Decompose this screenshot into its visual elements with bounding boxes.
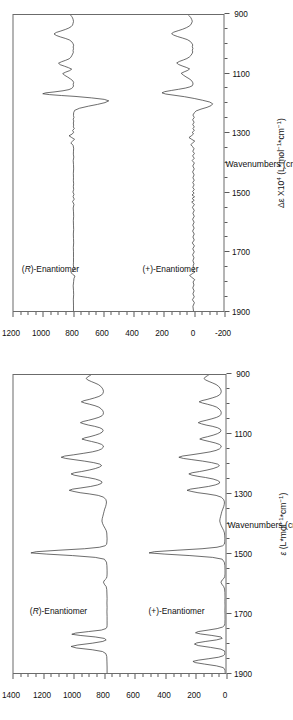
y-tick-label: 400 [119, 329, 145, 338]
axis-tick [50, 674, 51, 677]
axis-tick [226, 628, 229, 629]
axis-tick [226, 418, 229, 419]
y-tick-label: 1000 [59, 691, 85, 700]
axis-tick [150, 674, 151, 677]
axis-tick [88, 312, 89, 315]
x-tick-label: 1900 [229, 670, 257, 679]
axis-tick [58, 674, 59, 677]
ir-rotated-stage: 19001700150013001100900 0200400600800100… [0, 360, 293, 720]
axis-tick [57, 312, 58, 315]
axis-tick [27, 674, 28, 677]
axis-tick [81, 674, 82, 677]
axis-tick [42, 312, 43, 317]
spectrum-trace [30, 375, 106, 673]
axis-tick [118, 312, 119, 315]
axis-tick [224, 147, 227, 148]
axis-tick [157, 674, 158, 677]
y-tick-label: 1400 [0, 691, 24, 700]
axis-tick [186, 312, 187, 315]
axis-tick [173, 674, 174, 677]
axis-tick [226, 643, 229, 644]
axis-tick [226, 403, 229, 404]
vcd-trace-label-plus-enantiomer: (+)-Enantiomer [140, 264, 200, 274]
ir-plot-frame [12, 374, 226, 674]
axis-tick [27, 312, 28, 315]
axis-tick [65, 312, 66, 315]
x-tick-label: 1500 [229, 550, 257, 559]
y-tick-label: 200 [181, 691, 207, 700]
ir-trace-label-r-enantiomer: (R)-Enantiomer [28, 606, 88, 616]
figure-page: 19001700150013001100900 -200020040060080… [0, 0, 293, 720]
axis-tick [35, 674, 36, 677]
axis-tick [218, 674, 219, 677]
axis-tick [50, 312, 51, 315]
x-tick-label: 1700 [229, 610, 257, 619]
axis-tick [111, 674, 112, 677]
vcd-trace-label-r-enantiomer: (R)-Enantiomer [20, 264, 80, 274]
axis-tick [226, 508, 229, 509]
axis-tick [73, 674, 74, 679]
axis-tick [134, 674, 135, 679]
axis-tick [148, 312, 149, 315]
axis-tick [119, 674, 120, 677]
axis-tick [180, 674, 181, 677]
axis-tick [224, 237, 227, 238]
axis-tick [163, 312, 164, 317]
x-tick-label: 1100 [227, 69, 255, 78]
axis-tick [156, 312, 157, 315]
spectrum-trace [149, 375, 225, 673]
axis-tick [96, 674, 97, 677]
axis-tick [226, 478, 229, 479]
axis-tick [224, 222, 227, 223]
axis-tick [179, 312, 180, 315]
axis-tick [211, 674, 212, 677]
axis-tick [216, 312, 217, 315]
axis-tick [165, 674, 166, 679]
axis-tick [209, 312, 210, 315]
axis-tick [126, 312, 127, 315]
x-tick-label: 900 [229, 370, 257, 379]
y-tick-label: 800 [89, 691, 115, 700]
axis-tick [226, 658, 229, 659]
axis-tick [224, 88, 227, 89]
y-tick-label: 1200 [0, 329, 24, 338]
ir-spectrum-panel: 19001700150013001100900 0200400600800100… [0, 360, 293, 720]
axis-tick [80, 312, 81, 315]
axis-tick [226, 448, 229, 449]
axis-tick [127, 674, 128, 677]
ir-trace-svg [13, 375, 225, 673]
y-tick-label: 0 [179, 329, 205, 338]
axis-tick [224, 207, 227, 208]
ir-trace-label-plus-enantiomer: (+)-Enantiomer [146, 606, 206, 616]
axis-tick [73, 312, 74, 317]
x-tick-label: 1300 [229, 490, 257, 499]
ir-y-axis-title: ε (L*mol−1*cm−1) [276, 464, 288, 584]
axis-tick [103, 312, 104, 317]
axis-tick [226, 463, 229, 464]
y-tick-label: 600 [88, 329, 114, 338]
axis-tick [35, 312, 36, 315]
axis-tick [141, 312, 142, 315]
axis-tick [195, 674, 196, 679]
axis-tick [194, 312, 195, 317]
axis-tick [224, 43, 227, 44]
axis-tick [104, 674, 105, 679]
axis-tick [224, 58, 227, 59]
y-tick-label: 800 [58, 329, 84, 338]
vcd-y-axis-title: Δε X104 (L*mol−1*cm−1) [274, 103, 286, 223]
axis-tick [224, 312, 225, 317]
x-tick-label: 1700 [227, 248, 255, 257]
axis-tick [226, 568, 229, 569]
y-tick-label: 200 [149, 329, 175, 338]
vcd-spectrum-panel: 19001700150013001100900 -200020040060080… [0, 0, 293, 360]
x-tick-label: 900 [227, 10, 255, 19]
axis-tick [95, 312, 96, 315]
axis-tick [20, 674, 21, 677]
axis-tick [226, 674, 227, 679]
axis-tick [226, 583, 229, 584]
y-tick-label: -200 [210, 329, 236, 338]
ir-traces [13, 375, 225, 673]
axis-tick [224, 28, 227, 29]
axis-tick [133, 312, 134, 317]
axis-tick [188, 674, 189, 677]
